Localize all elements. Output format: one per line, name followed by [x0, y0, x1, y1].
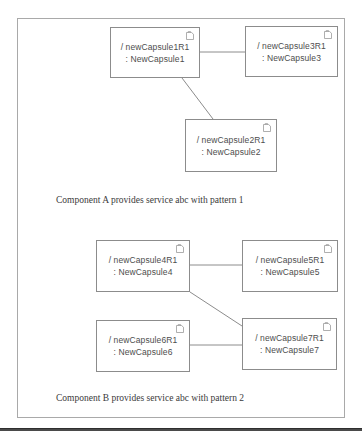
capsule-box-capsule4[interactable]: / newCapsule4R1 : NewCapsule4 — [96, 240, 190, 292]
capsule-role-label: / newCapsule5R1 — [256, 254, 325, 266]
capsule-component-icon — [322, 322, 332, 332]
capsule-box-capsule2[interactable]: / newCapsule2R1 : NewCapsule2 — [185, 119, 277, 172]
capsule-role-label: / newCapsule4R1 — [109, 254, 178, 266]
capsule-box-capsule5[interactable]: / newCapsule5R1 : NewCapsule5 — [242, 240, 338, 292]
capsule-box-capsule7[interactable]: / newCapsule7R1 : NewCapsule7 — [242, 318, 337, 370]
capsule-role-label: / newCapsule7R1 — [255, 332, 324, 344]
capsule-role-label: / newCapsule3R1 — [257, 40, 326, 52]
capsule-type-label: : NewCapsule2 — [202, 146, 261, 158]
capsule-role-label: / newCapsule2R1 — [197, 134, 266, 146]
capsule-box-capsule1[interactable]: / newCapsule1R1 : NewCapsule1 — [110, 27, 200, 78]
capsule-component-icon — [175, 244, 185, 254]
capsule-type-label: : NewCapsule7 — [260, 344, 319, 356]
caption-component-b: Component B provides service abc with pa… — [56, 392, 244, 404]
capsule-role-label: / newCapsule1R1 — [121, 41, 190, 53]
capsule-type-label: : NewCapsule4 — [114, 266, 173, 278]
capsule-component-icon — [323, 30, 333, 40]
capsule-type-label: : NewCapsule5 — [261, 266, 320, 278]
capsule-box-capsule3[interactable]: / newCapsule3R1 : NewCapsule3 — [245, 26, 338, 77]
capsule-component-icon — [185, 31, 195, 41]
capsule-component-icon — [175, 324, 185, 334]
capsule-type-label: : NewCapsule6 — [114, 346, 173, 358]
capsule-component-icon — [262, 123, 272, 133]
capsule-role-label: / newCapsule6R1 — [109, 334, 178, 346]
capsule-component-icon — [323, 244, 333, 254]
diagram-page: / newCapsule1R1 : NewCapsule1 / newCapsu… — [0, 0, 362, 443]
bottom-separator-rule — [0, 428, 362, 431]
capsule-type-label: : NewCapsule1 — [126, 53, 185, 65]
capsule-type-label: : NewCapsule3 — [262, 52, 321, 64]
caption-component-a: Component A provides service abc with pa… — [56, 194, 244, 206]
capsule-box-capsule6[interactable]: / newCapsule6R1 : NewCapsule6 — [96, 320, 190, 372]
